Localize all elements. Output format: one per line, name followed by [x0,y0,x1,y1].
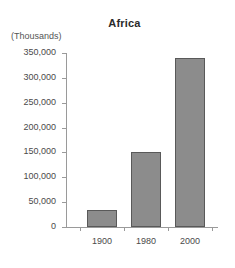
x-axis-tick [80,227,81,231]
x-axis-tick-label: 1980 [124,236,168,247]
y-axis-tick-label: 300,000 [23,72,56,83]
axis-unit-label: (Thousands) [11,31,62,41]
y-axis-tick-label: 50,000 [28,196,56,207]
x-axis-tick-label: 1900 [80,236,124,247]
y-axis-tick-label: 0 [51,221,56,232]
chart-figure: Africa (Thousands) 050,000100,000150,000… [0,0,235,268]
y-axis-tick: 0 [62,227,67,228]
x-axis-tick [124,227,125,231]
bar [175,58,205,227]
bar [131,152,161,227]
x-axis-tick [212,227,213,231]
plot-area: 050,000100,000150,000200,000250,000300,0… [66,53,218,227]
y-axis-tick-label: 200,000 [23,122,56,133]
bar-series [66,53,218,227]
y-axis-tick-label: 100,000 [23,171,56,182]
y-axis-tick-label: 350,000 [23,47,56,58]
chart-title: Africa [0,17,235,29]
x-axis-tick [168,227,169,231]
bar [87,210,117,227]
x-axis-tick-label: 2000 [168,236,212,247]
y-axis-tick-label: 250,000 [23,97,56,108]
y-axis-tick-label: 150,000 [23,146,56,157]
x-axis-line [66,227,218,228]
